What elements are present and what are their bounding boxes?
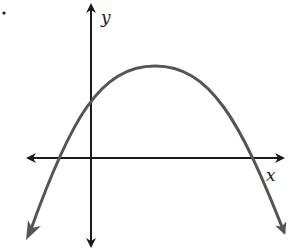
parabola-graph: y x [0, 0, 292, 251]
y-axis-label: y [100, 7, 111, 27]
marker-dot [2, 11, 5, 14]
parabola-curve [30, 66, 284, 232]
graph-canvas: y x [0, 0, 292, 251]
x-axis-label: x [266, 165, 276, 185]
